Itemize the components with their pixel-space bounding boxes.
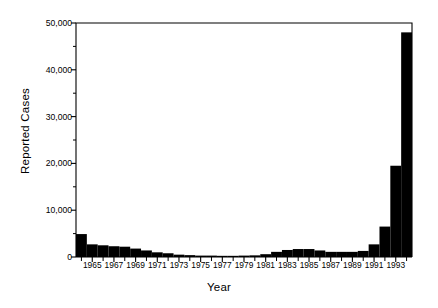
x-tick-label: 1973 [170,260,189,270]
bar [163,253,174,257]
x-tick-label: 1969 [126,260,145,270]
bar [109,246,120,257]
bar [358,251,369,257]
chart-figure: Reported Cases 010,00020,00030,00040,000… [0,0,438,308]
x-tick-label: 1991 [365,260,384,270]
x-tick-label: 1981 [256,260,275,270]
x-axis-title: Year [0,281,438,293]
x-tick-label: 1965 [83,260,102,270]
bar [325,252,336,257]
x-axis-title-text: Year [207,281,231,293]
x-tick-label: 1983 [278,260,297,270]
x-tick-label: 1979 [235,260,254,270]
x-tick-label: 1993 [386,260,405,270]
x-tick-label: 1975 [191,260,210,270]
bar [369,244,380,257]
bar [293,249,304,257]
bar [141,250,152,257]
x-tick-label: 1967 [105,260,124,270]
bar [379,227,390,257]
bar [347,252,358,257]
x-tick-label: 1971 [148,260,167,270]
bar [130,249,141,257]
plot-background [76,23,412,257]
bar [98,245,109,257]
x-tick-label: 1985 [300,260,319,270]
x-tick-label: 1989 [343,260,362,270]
bar [152,252,163,257]
bar [401,32,412,257]
bar [271,252,282,257]
bar [314,250,325,257]
x-tick-label: 1977 [213,260,232,270]
bar [390,166,401,257]
bar [336,252,347,257]
bar [76,234,87,257]
x-tick-label: 1987 [321,260,340,270]
bar [282,250,293,257]
bar [304,249,315,257]
y-axis-ticks [71,23,76,257]
bar [119,247,130,257]
x-axis-tick-labels: 1965196719691971197319751977197919811983… [0,260,438,276]
bar [87,244,98,257]
